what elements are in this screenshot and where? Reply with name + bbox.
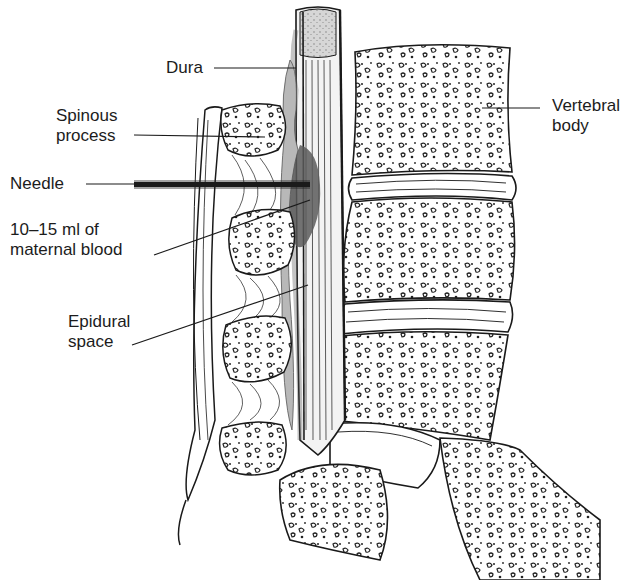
label-dura: Dura: [166, 58, 203, 78]
label-spinous-process: Spinous process: [56, 106, 117, 146]
spine-diagram: [0, 0, 644, 580]
needle: [134, 181, 310, 188]
label-epidural-space: Epidural space: [68, 312, 130, 352]
label-needle: Needle: [10, 174, 64, 194]
label-maternal-blood: 10–15 ml of maternal blood: [10, 220, 122, 260]
label-vertebral-body: Vertebral body: [552, 96, 620, 136]
posterior-elements: [178, 104, 294, 545]
